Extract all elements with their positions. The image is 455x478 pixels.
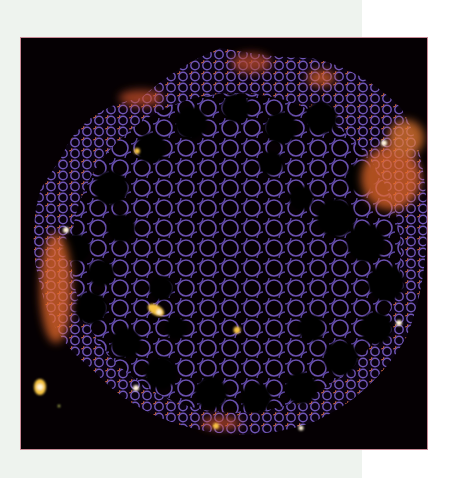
root-cross-section-image — [21, 38, 427, 449]
micrograph-panel — [21, 38, 427, 449]
